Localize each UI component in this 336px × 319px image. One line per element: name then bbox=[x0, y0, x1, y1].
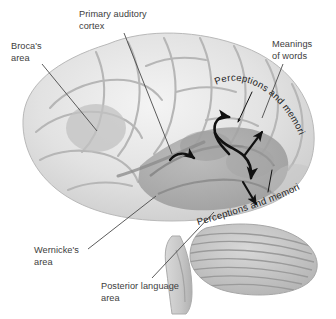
label-wernickes-area: Wernicke's area bbox=[34, 245, 79, 268]
label-brocas-area: Broca's area bbox=[11, 41, 42, 64]
label-meanings-of-words: Meanings of words bbox=[272, 39, 312, 62]
brocas-area-shading bbox=[66, 104, 126, 152]
brain-diagram-figure: Perceptions and memories Perceptions and… bbox=[0, 0, 336, 319]
label-primary-auditory-cortex: Primary auditory cortex bbox=[79, 9, 147, 32]
label-posterior-language-area: Posterior language area bbox=[101, 281, 179, 304]
